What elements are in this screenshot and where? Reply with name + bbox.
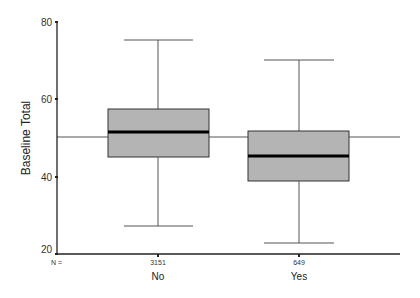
box-no — [108, 40, 209, 226]
count-label-yes: 649 — [293, 259, 305, 266]
y-tick-label: 80 — [41, 17, 53, 28]
box-yes — [248, 60, 349, 243]
y-tick-label: 20 — [41, 244, 53, 255]
category-label-yes: Yes — [291, 271, 307, 282]
n-prefix-label: N = — [51, 259, 62, 266]
y-tick-label: 40 — [41, 172, 53, 183]
category-label-no: No — [152, 271, 165, 282]
y-tick-label: 60 — [41, 94, 53, 105]
y-axis-title: Baseline Total — [19, 101, 33, 176]
count-label-no: 3151 — [150, 259, 166, 266]
boxplot-chart: 80 60 40 20 Baseline Total N = 3151 649 … — [0, 0, 420, 298]
